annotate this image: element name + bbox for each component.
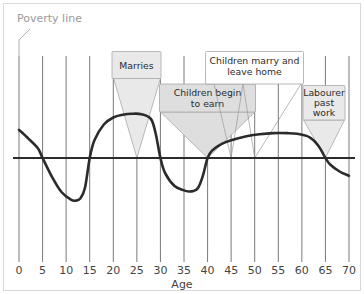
poverty-line-label: Poverty line [17,12,82,25]
children-begin-to-earn-funnel [161,112,256,158]
poverty-cycle-chart-figure: Poverty line Marries Children begin to e… [0,0,364,294]
x-tick-label-50: 50 [248,264,262,277]
children-marry-line-2: leave home [227,66,282,77]
x-tick-label-45: 45 [224,264,238,277]
children-begin-to-earn-line-1: Children begin [174,87,242,98]
annotation-marries[interactable]: Marries [112,52,161,159]
annotation-labourer-past-work[interactable]: Labourer past work [303,86,345,159]
x-tick-label-65: 65 [318,264,332,277]
x-axis-ticks-group [19,252,349,262]
children-marry-line-1: Children marry and [210,55,300,66]
x-tick-label-30: 30 [153,264,167,277]
x-axis-title: Age [171,278,193,291]
labourer-past-work-line-3: work [313,107,336,118]
x-tick-label-60: 60 [295,264,309,277]
marries-funnel [114,78,161,158]
x-tick-label-0: 0 [16,264,23,277]
x-tick-label-15: 15 [83,264,97,277]
x-tick-label-25: 25 [130,264,144,277]
x-tick-label-20: 20 [106,264,120,277]
x-tick-label-70: 70 [342,264,356,277]
x-tick-label-5: 5 [39,264,46,277]
x-tick-label-10: 10 [59,264,73,277]
x-tick-label-35: 35 [177,264,191,277]
chart-plot-area: Poverty line Marries Children begin to e… [0,0,364,294]
x-axis-tick-labels-group: 0510152025303540455055606570 [16,264,357,277]
x-tick-label-55: 55 [271,264,285,277]
x-tick-label-40: 40 [201,264,215,277]
poverty-line-leader [19,29,30,56]
labourer-past-work-funnel [304,120,345,158]
marries-label: Marries [119,60,154,71]
